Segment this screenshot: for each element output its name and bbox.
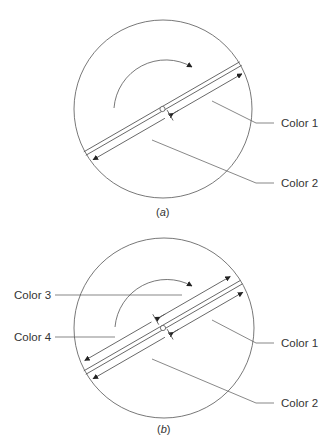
leader-color-2	[152, 140, 274, 183]
label-color-2: Color 2	[281, 397, 318, 409]
dimension-arrow-right	[174, 74, 242, 114]
label-color-1: Color 1	[281, 117, 318, 129]
pivot-point	[160, 106, 165, 111]
strip	[84, 62, 249, 167]
panel-a: Color 1 Color 2 (a)	[74, 20, 318, 218]
caption-b: (b)	[157, 423, 170, 435]
label-color-4: Color 4	[14, 331, 52, 343]
leader-color-1	[212, 320, 274, 343]
dimension-arrow-left	[93, 118, 165, 160]
panel-b: Color 1 Color 2 Color 3 Color 4 (b)	[14, 238, 318, 435]
label-color-3: Color 3	[14, 289, 51, 301]
label-color-2: Color 2	[281, 177, 318, 189]
caption-a: (a)	[156, 206, 169, 218]
figure: Color 1 Color 2 (a) Color 1 Color 2	[0, 0, 333, 447]
leader-color-1	[212, 101, 274, 123]
label-color-1: Color 1	[281, 337, 318, 349]
leader-color-2	[152, 359, 274, 403]
pivot-point	[160, 325, 165, 330]
